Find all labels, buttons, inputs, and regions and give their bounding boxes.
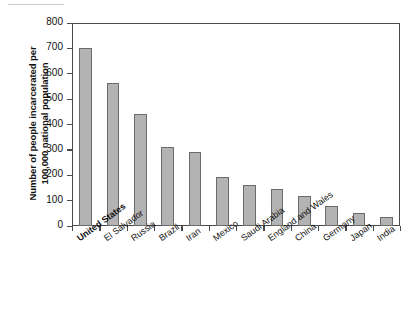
x-axis-label: Mexico (211, 218, 240, 243)
incarceration-bar-chart: Number of people incarcerated per 100,00… (0, 0, 415, 320)
x-axis-label: India (375, 224, 397, 244)
x-axis-labels: United StatesEl SalvadorRussiaBrazilIran… (0, 0, 415, 320)
x-axis-label: Brazil (157, 222, 181, 243)
x-axis-label: Iran (184, 226, 202, 243)
